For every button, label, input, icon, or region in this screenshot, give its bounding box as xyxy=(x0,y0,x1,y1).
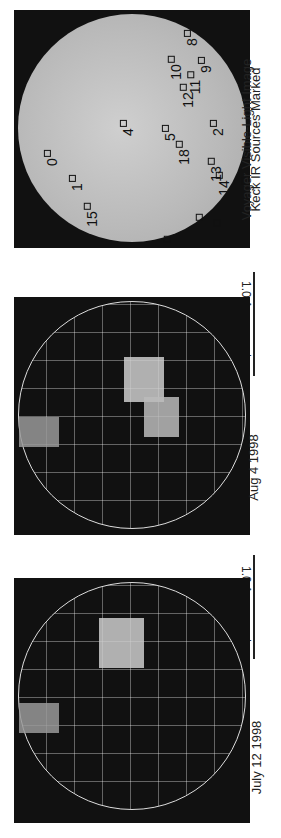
ir-source-marker: 1 xyxy=(69,175,85,191)
july-panel xyxy=(14,578,250,823)
io-ir-disk-aug xyxy=(18,301,246,529)
aug-panel xyxy=(14,297,250,535)
ir-source-marker: 2 xyxy=(210,120,226,136)
ir-source-marker: 16 xyxy=(196,214,212,238)
july-caption: July 12 1998 xyxy=(249,721,264,795)
ir-source-marker: 9 xyxy=(198,57,214,73)
ir-source-marker: 10 xyxy=(168,56,184,80)
ir-source-marker: 8 xyxy=(184,30,200,46)
ir-source-marker: 14 xyxy=(216,172,232,196)
ir-source-marker: 4 xyxy=(120,120,136,136)
ir-source-marker: 15 xyxy=(84,203,100,227)
scale-arrow xyxy=(253,272,255,376)
scale-arrow xyxy=(253,555,255,659)
ir-source-marker: 18 xyxy=(176,141,192,165)
voyager-panel: 011545181081112921314163176 xyxy=(14,10,250,248)
io-ir-disk-july xyxy=(18,582,246,810)
ir-source-marker: 17 xyxy=(164,236,180,248)
ir-source-marker: 3 xyxy=(214,220,230,236)
ir-source-marker: 5 xyxy=(162,125,178,141)
aug-caption: Aug 4 1998 xyxy=(246,434,261,501)
ir-source-marker: 12 xyxy=(180,84,196,108)
voyager-caption-line2: Keck IR Sources Marked xyxy=(248,68,263,212)
ir-source-marker: 0 xyxy=(44,150,60,166)
